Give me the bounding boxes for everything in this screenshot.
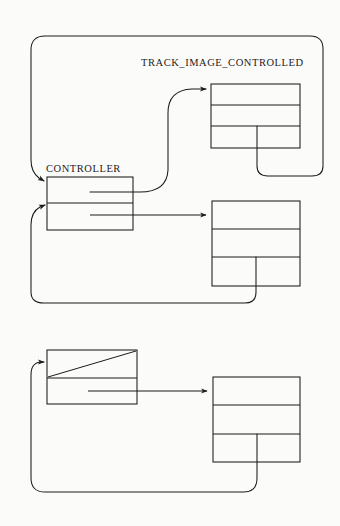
track-image-controlled-label: TRACK_IMAGE_CONTROLLED — [141, 57, 304, 68]
diagram-canvas: TRACK_IMAGE_CONTROLLED CONTROLLER — [0, 0, 340, 526]
track-image-controlled-node — [211, 84, 300, 148]
backlink-second-target-to-controller — [31, 205, 256, 303]
backlink-bottom-target-to-bottom-controller — [31, 362, 257, 492]
pointer-structure-diagram: TRACK_IMAGE_CONTROLLED CONTROLLER — [0, 0, 340, 526]
null-pointer-slash — [48, 351, 136, 377]
bottom-controller-node — [47, 350, 137, 404]
controller-node — [47, 177, 133, 230]
controller-label: CONTROLLER — [46, 163, 121, 174]
